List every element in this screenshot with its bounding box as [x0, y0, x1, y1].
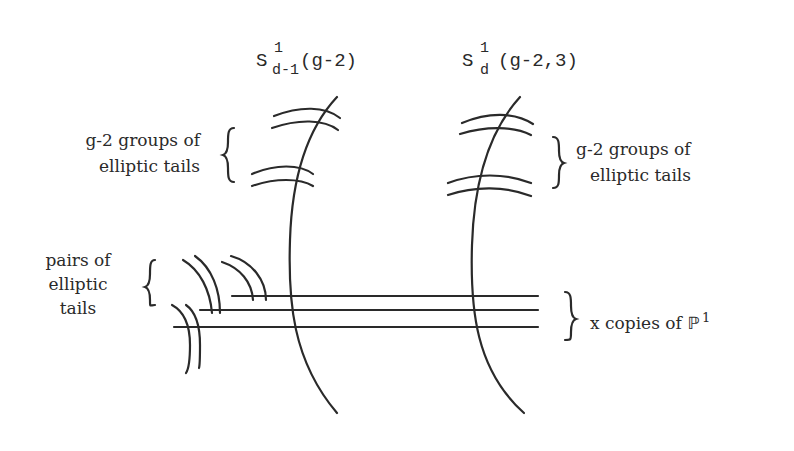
left-component-superscript: 1 — [274, 40, 283, 57]
projective-line-symbol: ℙ — [687, 313, 699, 333]
right-component-curve — [472, 97, 524, 413]
p1-copies — [174, 296, 538, 327]
left-tails-brace — [223, 128, 234, 182]
pair-elliptic-tails — [172, 256, 266, 373]
left-component-curve — [290, 97, 337, 413]
left-tails-label-line2: elliptic tails — [40, 156, 200, 176]
left-component-argument: (g-2) — [300, 50, 357, 72]
copies-text: x copies of — [590, 313, 687, 333]
left-elliptic-tails — [252, 109, 340, 186]
pairs-label-line1: pairs of — [28, 250, 128, 270]
right-component-symbol: S — [462, 50, 473, 72]
right-component-subscript: d — [480, 62, 489, 79]
left-tails-label: g-2 groups of elliptic tails — [40, 130, 200, 176]
right-component-label: S 1 d (g-2,3) — [462, 40, 592, 80]
left-component-subscript: d-1 — [272, 62, 299, 79]
copies-brace — [565, 292, 576, 340]
pairs-tails-label: pairs of elliptic tails — [28, 250, 128, 318]
right-component-argument: (g-2,3) — [498, 50, 578, 72]
right-tails-label-line1: g-2 groups of — [576, 139, 776, 159]
pairs-brace — [145, 260, 155, 306]
right-tails-label: g-2 groups of elliptic tails — [576, 139, 776, 185]
right-component-superscript: 1 — [480, 40, 489, 57]
copies-superscript: 1 — [702, 310, 710, 325]
right-tails-label-line2: elliptic tails — [576, 165, 776, 185]
right-tails-brace — [553, 137, 564, 188]
left-tails-label-line1: g-2 groups of — [40, 130, 200, 150]
left-component-label: S 1 d-1 (g-2) — [256, 40, 366, 80]
pairs-label-line2: elliptic — [28, 274, 128, 294]
pairs-label-line3: tails — [28, 298, 128, 318]
moduli-diagram — [0, 0, 794, 451]
left-component-symbol: S — [256, 50, 267, 72]
copies-label: x copies of ℙ1 — [590, 308, 790, 333]
right-elliptic-tails — [448, 115, 533, 196]
